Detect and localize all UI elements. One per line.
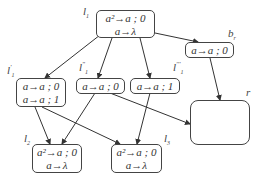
node-label-l2: l2 xyxy=(24,132,30,146)
edge-br-r xyxy=(210,58,220,100)
edge-l1-br xyxy=(155,33,198,42)
rule: a→λ xyxy=(97,25,154,38)
rule: a→a ; 1 xyxy=(17,93,65,106)
node-label-r: r xyxy=(246,86,250,98)
rule: a→a ; 0 xyxy=(17,80,65,93)
node-l3: a²→a ; 0 a→λ xyxy=(111,144,162,173)
node-label-l3: l3 xyxy=(164,132,170,146)
node-br: a→a ; 0 xyxy=(185,42,234,58)
edge-l1-l1pp xyxy=(98,38,112,78)
node-l1-prime: a→a ; 0 a→a ; 1 xyxy=(16,78,66,107)
node-label-l1: l1 xyxy=(83,5,89,19)
rule: a→a ; 1 xyxy=(131,80,179,93)
node-r xyxy=(190,100,250,145)
node-label-l1p: l'1 xyxy=(7,63,15,78)
node-l1-double-prime: a→a ; 0 xyxy=(76,78,125,94)
edge-l1p-l2 xyxy=(35,107,50,144)
rule: a→a ; 0 xyxy=(77,80,124,93)
node-label-br: br xyxy=(228,27,236,41)
rule: a²→a ; 0 xyxy=(33,146,81,159)
node-label-l1pp: l"1 xyxy=(79,60,88,75)
edge-l1pp-r xyxy=(110,93,190,124)
node-l2: a²→a ; 0 a→λ xyxy=(32,144,82,173)
rule: a²→a ; 0 xyxy=(97,12,154,25)
node-l1: a²→a ; 0 a→λ xyxy=(96,10,155,38)
edge-l1ppp-l3 xyxy=(137,93,150,144)
rule: a²→a ; 0 xyxy=(112,146,161,159)
edge-l1-l1ppp xyxy=(140,38,150,78)
rule: a→λ xyxy=(112,159,161,172)
node-label-l1ppp: l'''1 xyxy=(173,60,184,75)
rule: a→λ xyxy=(33,159,81,172)
edge-l1-l1p xyxy=(45,35,100,78)
rule: a→a ; 0 xyxy=(186,44,233,57)
node-l1-triple-prime: a→a ; 1 xyxy=(130,78,180,94)
edge-l1p-l3 xyxy=(42,107,120,144)
